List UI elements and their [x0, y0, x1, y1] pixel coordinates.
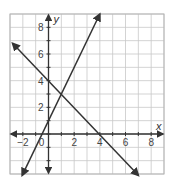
y-tick-label: 2 — [38, 102, 44, 113]
x-tick-label: 2 — [71, 137, 77, 148]
plotted-lines — [13, 14, 139, 175]
x-tick-label: 6 — [123, 137, 129, 148]
x-tick-label: 8 — [148, 137, 154, 148]
x-tick-label: −2 — [17, 137, 29, 148]
y-tick-label: 6 — [38, 49, 44, 60]
x-axis-label: x — [155, 120, 162, 132]
x-tick-label: 0 — [39, 137, 45, 148]
coordinate-plane: −2024682468 x y — [0, 0, 172, 182]
x-tick-label: 4 — [97, 137, 103, 148]
grid-lines — [10, 14, 164, 174]
tick-labels: −2024682468 — [17, 22, 154, 148]
y-axis-label: y — [53, 13, 61, 25]
y-tick-label: 8 — [38, 22, 44, 33]
y-tick-label: 4 — [38, 76, 44, 87]
